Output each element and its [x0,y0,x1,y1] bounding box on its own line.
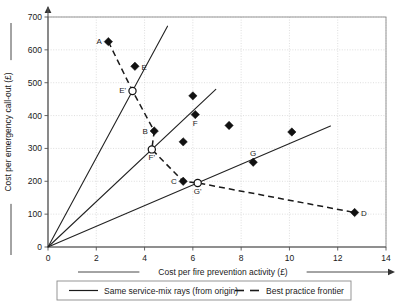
x-tick-label: 0 [46,253,51,263]
plot-area-border [48,17,386,247]
point-label-G: G [250,149,256,158]
gridlines [48,17,386,247]
x-tick-label: 10 [285,253,295,263]
axis-titles: Cost per fire prevention activity (£)Cos… [3,23,395,277]
x-axis-title: Cost per fire prevention activity (£) [158,267,288,277]
y-tick-label: 0 [37,242,42,252]
x-tick-label: 12 [333,253,343,263]
ray-through-F-prime [48,89,216,247]
marker-C [179,177,187,185]
marker-unlabeled [288,128,296,136]
marker-unlabeled [225,121,233,129]
y-tick-label: 700 [28,12,42,22]
chart-legend: Same service-mix rays (from origin)Best … [57,281,351,300]
x-tick-label: 6 [190,253,195,263]
chart-container: AEBFCGDE'F'G' 02468101214010020030040050… [0,0,402,303]
y-tick-label: 100 [28,209,42,219]
point-label-F-prime: F' [149,153,156,162]
x-tick-label: 2 [94,253,99,263]
marker-unlabeled [189,92,197,100]
marker-G [249,158,257,166]
marker-D [350,208,358,216]
y-tick-label: 600 [28,45,42,55]
point-label-G-prime: G' [194,187,202,196]
marker-E [131,62,139,70]
legend-label-service-mix-rays: Same service-mix rays (from origin) [104,286,238,296]
x-axis-title-arrow [388,269,395,275]
y-axis-title: Cost per emergency call-out (£) [3,72,13,191]
marker-E-prime [129,87,136,94]
y-tick-label: 300 [28,143,42,153]
y-tick-label: 500 [28,78,42,88]
x-tick-label: 4 [142,253,147,263]
y-tick-label: 200 [28,176,42,186]
point-label-A: A [97,37,103,46]
point-label-D: D [361,209,367,218]
y-tick-label: 400 [28,111,42,121]
point-label-E: E [141,63,146,72]
marker-B [150,127,158,135]
marker-G-prime [194,179,201,186]
legend-label-best-practice-frontier: Best practice frontier [266,286,344,296]
ray-through-G-prime [48,126,330,247]
x-tick-label: 8 [239,253,244,263]
point-label-C: C [171,177,177,186]
point-label-E-prime: E' [119,86,126,95]
point-label-F: F [193,119,198,128]
point-label-B: B [142,127,147,136]
marker-unlabeled [179,138,187,146]
scatter-plot-svg: AEBFCGDE'F'G' 02468101214010020030040050… [0,0,402,303]
marker-A [104,37,112,45]
x-tick-label: 14 [381,253,391,263]
marker-F-prime [148,146,155,153]
